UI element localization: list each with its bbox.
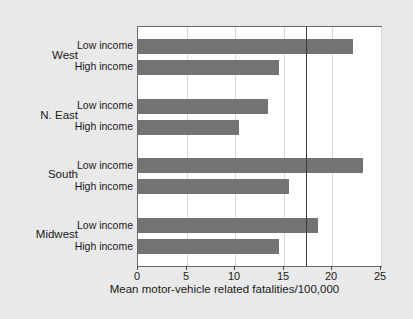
category-label: Low income <box>77 220 133 231</box>
bar <box>138 158 363 173</box>
bar <box>138 239 279 254</box>
tick-label: 10 <box>228 271 240 282</box>
bar <box>138 179 289 194</box>
category-label: High income <box>75 121 133 132</box>
tick-label: 20 <box>325 271 337 282</box>
bar-chart: Low incomeHigh incomeLow incomeHigh inco… <box>0 0 413 319</box>
reference-line <box>306 27 307 266</box>
tick-label: 15 <box>277 271 289 282</box>
bar <box>138 218 318 233</box>
plot-area <box>137 26 382 267</box>
tick-label: 25 <box>374 271 386 282</box>
group-label: Midwest <box>36 229 78 241</box>
group-label: South <box>48 169 78 181</box>
bar <box>138 60 279 75</box>
category-label: High income <box>75 241 133 252</box>
group-label: N. East <box>40 110 78 122</box>
bar <box>138 120 239 135</box>
category-label: Low income <box>77 100 133 111</box>
group-label: West <box>52 50 78 62</box>
tick-label: 5 <box>183 271 189 282</box>
gridline <box>332 27 333 266</box>
gridline <box>381 27 382 266</box>
category-label: High income <box>75 181 133 192</box>
bar <box>138 99 268 114</box>
group-labels: WestN. EastSouthMidwest <box>0 26 78 265</box>
bar <box>138 39 353 54</box>
category-label: Low income <box>77 160 133 171</box>
category-label: High income <box>75 61 133 72</box>
category-label: Low income <box>77 40 133 51</box>
tick-label: 0 <box>134 271 140 282</box>
x-axis-label: Mean motor-vehicle related fatalities/10… <box>0 283 413 295</box>
